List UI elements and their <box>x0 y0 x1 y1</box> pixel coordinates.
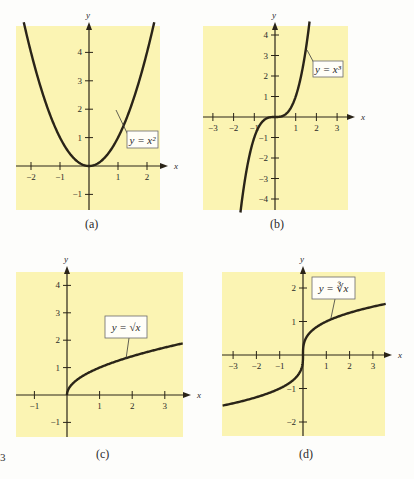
x-axis-arrow-icon <box>183 392 191 398</box>
y-tick-label: −2 <box>258 153 268 163</box>
x-tick-label: −1 <box>275 361 285 371</box>
x-axis-arrow-icon <box>384 352 392 358</box>
equation-label: y = ∛x <box>318 281 349 294</box>
equation-label: y = √x <box>111 321 141 333</box>
y-tick-label: 4 <box>264 30 269 40</box>
x-tick-label: 3 <box>371 361 376 371</box>
x-axis-arrow-icon <box>347 114 355 120</box>
panel-caption: (a) <box>85 217 98 231</box>
panel-background <box>16 26 160 210</box>
y-tick-label: 3 <box>78 76 83 86</box>
panel-caption: (b) <box>270 217 284 231</box>
equation-label: y = x² <box>129 134 157 146</box>
x-tick-label: −2 <box>229 123 239 133</box>
chart-panel-d: xy−3−2−1123−2−112y = ∛x(d) <box>222 254 402 461</box>
x-tick-label: 2 <box>130 401 135 411</box>
x-axis-label: x <box>397 350 402 360</box>
x-tick-label: 2 <box>347 361 352 371</box>
y-axis-label: y <box>85 10 90 20</box>
y-axis-label: y <box>271 10 276 20</box>
x-tick-label: 1 <box>293 123 298 133</box>
x-tick-label: −3 <box>228 361 238 371</box>
y-tick-label: 2 <box>56 335 61 345</box>
panel-background <box>16 272 183 437</box>
x-tick-label: 2 <box>314 123 319 133</box>
y-tick-label: 4 <box>56 280 61 290</box>
y-tick-label: −2 <box>286 417 296 427</box>
y-tick-label: 1 <box>78 133 83 143</box>
x-tick-label: −1 <box>55 172 65 182</box>
function-graphs-figure: xy−2−112−11234y = x²(a)xy−3−2−1123−4−3−2… <box>0 0 414 479</box>
x-axis-label: x <box>196 390 201 400</box>
y-tick-label: 2 <box>292 283 297 293</box>
x-tick-label: 3 <box>163 401 168 411</box>
x-tick-label: 1 <box>97 401 102 411</box>
y-tick-label: 1 <box>56 363 61 373</box>
panel-caption: (c) <box>96 447 109 461</box>
y-tick-label: 2 <box>78 104 83 114</box>
y-axis-arrow-icon <box>64 266 70 274</box>
x-tick-label: −1 <box>30 401 40 411</box>
y-tick-label: −1 <box>72 189 82 199</box>
y-tick-label: −1 <box>258 133 268 143</box>
y-tick-label: 3 <box>56 308 61 318</box>
x-tick-label: 1 <box>116 172 121 182</box>
x-tick-label: −2 <box>26 172 36 182</box>
y-tick-label: 2 <box>264 71 269 81</box>
y-tick-label: 1 <box>264 92 269 102</box>
x-tick-label: 1 <box>324 361 329 371</box>
y-tick-label: 3 <box>264 51 269 61</box>
figure-canvas: xy−2−112−11234y = x²(a)xy−3−2−1123−4−3−2… <box>0 0 414 479</box>
y-tick-label: −4 <box>258 194 268 204</box>
x-axis-arrow-icon <box>160 163 168 169</box>
y-axis-arrow-icon <box>300 266 306 274</box>
y-axis-label: y <box>63 254 68 264</box>
chart-panel-c: xy−1123−11234y = √x(c) <box>16 254 201 461</box>
y-tick-label: 1 <box>292 317 297 327</box>
x-tick-label: 3 <box>335 123 340 133</box>
x-axis-label: x <box>360 112 365 122</box>
x-axis-label: x <box>173 161 178 171</box>
equation-label: y = x³ <box>314 63 342 75</box>
y-tick-label: −3 <box>258 174 268 184</box>
y-tick-label: 4 <box>78 47 83 57</box>
chart-panel-b: xy−3−2−1123−4−3−2−11234y = x³(b) <box>203 10 365 231</box>
edge-text-fragment: 3 <box>0 451 6 463</box>
x-tick-label: 2 <box>145 172 150 182</box>
x-tick-label: −2 <box>252 361 262 371</box>
x-tick-label: −3 <box>208 123 218 133</box>
y-axis-label: y <box>299 254 304 264</box>
panel-caption: (d) <box>299 447 313 461</box>
chart-panel-a: xy−2−112−11234y = x²(a) <box>16 10 178 231</box>
y-tick-label: −1 <box>50 417 60 427</box>
